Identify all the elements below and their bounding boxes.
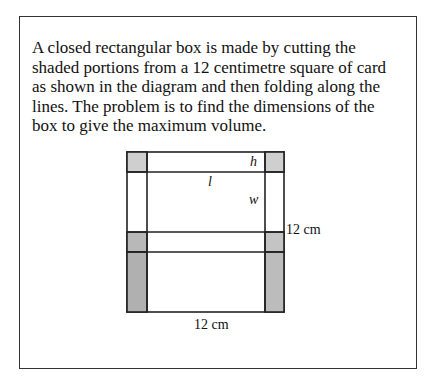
shaded-corner-mid-left [127,232,147,252]
shaded-corner-top-right [265,152,284,172]
label-width: w [249,192,258,208]
shaded-strip-bottom-left [127,252,147,312]
label-side-bottom: 12 cm [194,317,229,333]
label-length: l [208,174,212,190]
shaded-corner-mid-right [265,232,284,252]
shaded-corner-top-left [127,152,147,172]
label-height: h [250,154,257,170]
shaded-strip-bottom-right [265,252,284,312]
label-side-right: 12 cm [286,222,321,238]
